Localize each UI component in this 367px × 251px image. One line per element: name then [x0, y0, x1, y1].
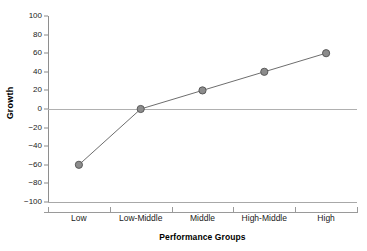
x-axis-tick-mark: [172, 207, 173, 213]
y-axis-title-text: Growth: [5, 86, 15, 119]
x-axis-tick-mark: [233, 207, 234, 213]
chart-figure: Growth 100806040200−20−40−60−80−100 LowL…: [0, 0, 367, 251]
x-axis-tick-mark: [295, 207, 296, 213]
x-axis-tick-label: Low-Middle: [119, 214, 162, 223]
y-axis-tick-label: −40: [28, 142, 42, 150]
x-axis-tick-mark: [110, 207, 111, 213]
x-axis-tick-labels: LowLow-MiddleMiddleHigh-MiddleHigh: [48, 214, 357, 228]
y-axis-tick-label: 60: [33, 49, 42, 57]
x-axis-tick-label: High-Middle: [242, 214, 287, 223]
axis-bottom-line: [48, 202, 357, 203]
y-axis-tick-label: 0: [38, 105, 42, 113]
x-axis-tick-label: Middle: [190, 214, 215, 223]
series-line: [79, 53, 326, 165]
x-axis-title: Performance Groups: [48, 232, 357, 242]
data-point-marker: [75, 161, 82, 168]
x-axis-tick-mark: [48, 207, 49, 213]
data-series-line: [48, 16, 357, 202]
data-point-marker: [199, 87, 206, 94]
plot-area: [48, 16, 357, 202]
y-axis-tick-label: −60: [28, 161, 42, 169]
y-axis-tick-label: 100: [29, 12, 42, 20]
data-point-marker: [323, 50, 330, 57]
y-axis-tick-label: 40: [33, 68, 42, 76]
y-axis-tick-label: 20: [33, 86, 42, 94]
y-axis-tick-label: −20: [28, 124, 42, 132]
y-axis-tick-label: 80: [33, 31, 42, 39]
x-axis-tick-label: Low: [71, 214, 87, 223]
y-axis-tick-labels: 100806040200−20−40−60−80−100: [16, 16, 42, 202]
y-axis-tick-label: −100: [24, 198, 42, 206]
x-axis-tick-mark: [357, 207, 358, 213]
data-point-marker: [137, 105, 144, 112]
y-axis-tick-label: −80: [28, 179, 42, 187]
data-point-marker: [261, 68, 268, 75]
x-axis-tick-label: High: [317, 214, 334, 223]
